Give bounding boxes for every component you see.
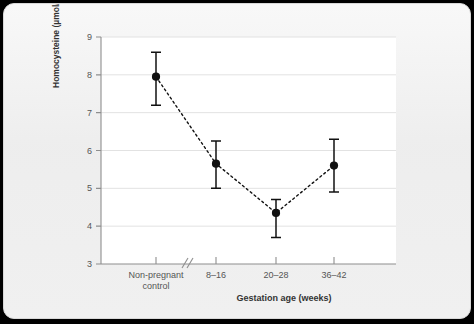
y-tick-label: 9 — [72, 32, 92, 42]
y-tick-label: 7 — [72, 108, 92, 118]
x-tick-label-36-42: 36–42 — [304, 270, 364, 281]
y-tick-label: 3 — [72, 259, 92, 269]
slide-panel: 9 8 7 6 5 4 3 Non-pregnant control 8–16 … — [3, 3, 471, 319]
x-tick-marks — [156, 257, 334, 264]
y-axis-title: Homocysteine (µmol/L) — [51, 3, 61, 88]
series-line — [156, 77, 334, 213]
x-tick-label-8-16: 8–16 — [186, 270, 246, 281]
x-axis-title: Gestation age (weeks) — [154, 293, 414, 303]
y-tick-label: 5 — [72, 183, 92, 193]
data-point-marker — [330, 162, 338, 170]
y-tick-label: 6 — [72, 146, 92, 156]
gridlines — [101, 37, 396, 226]
homocysteine-gestation-chart: 9 8 7 6 5 4 3 Non-pregnant control 8–16 … — [4, 4, 471, 319]
data-point-marker — [272, 209, 280, 217]
error-bar-group-3 — [271, 200, 281, 238]
y-tick-label: 8 — [72, 70, 92, 80]
y-tick-marks — [96, 37, 101, 264]
data-point-marker — [212, 160, 220, 168]
y-tick-label: 4 — [72, 221, 92, 231]
axis-break-icon — [182, 258, 193, 268]
x-tick-label-line: control — [111, 281, 201, 292]
x-tick-label-20-28: 20–28 — [246, 270, 306, 281]
figure-root: 9 8 7 6 5 4 3 Non-pregnant control 8–16 … — [0, 0, 474, 324]
data-point-marker — [152, 73, 160, 81]
